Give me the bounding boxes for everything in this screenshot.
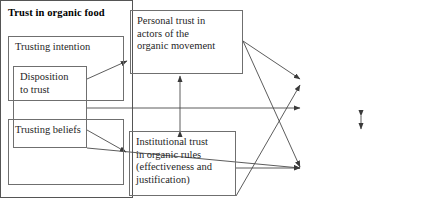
- group-title: Trust in organic food: [8, 7, 105, 18]
- node-personal-trust: Personal trust in actors of the organic …: [130, 10, 243, 74]
- edge-institutional-intention: [236, 85, 300, 196]
- node-institutional-trust: Institutional trust in organic rules (ef…: [129, 131, 236, 196]
- node-institutional-label: Institutional trust in organic rules (ef…: [136, 136, 232, 186]
- node-trusting-beliefs: Trusting beliefs: [8, 119, 124, 185]
- diagram-canvas: Disposition to trust Personal trust in a…: [0, 0, 442, 222]
- node-intention-label: Trusting intention: [15, 41, 120, 54]
- node-personal-label: Personal trust in actors of the organic …: [137, 15, 239, 53]
- node-trusting-intention: Trusting intention: [8, 36, 124, 101]
- node-beliefs-label: Trusting beliefs: [15, 124, 120, 137]
